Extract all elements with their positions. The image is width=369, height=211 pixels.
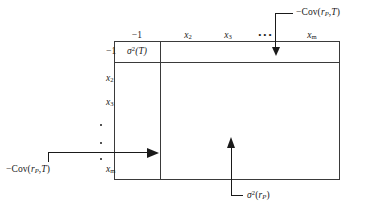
- annotation-bottom-left-label: −Cov(rP,T): [6, 165, 50, 175]
- leader-line-bottom-center-horizontal: [231, 195, 243, 196]
- column-header-m: xm: [307, 31, 317, 41]
- leader-line-bottom-center-vertical: [231, 148, 232, 196]
- annotation-top-right-label: −Cov(rP,T): [296, 8, 340, 18]
- arrow-up-bottom-center: [227, 137, 235, 148]
- cell-variance-of-T: σ2(T): [114, 41, 160, 62]
- annotation-bottom-center-label: σ2(rP): [247, 190, 270, 201]
- row-header-dot-2: [100, 142, 102, 144]
- column-header-ellipsis: • • •: [258, 31, 272, 40]
- leader-line-top-right-vertical: [275, 13, 276, 48]
- matrix-header-column-rule: [160, 41, 161, 180]
- arrow-down-top-right: [272, 47, 280, 56]
- leader-line-top-right-horizontal: [275, 13, 293, 14]
- column-header-1: −1: [132, 31, 142, 41]
- arrow-right-bottom-left: [147, 148, 159, 158]
- figure-covariance-matrix-diagram: −1 x2 x3 • • • xm −1 x2 x3 xm σ2(T) −Cov…: [0, 0, 369, 211]
- leader-line-bottom-left-vertical: [48, 152, 49, 162]
- matrix-header-row-rule: [114, 62, 340, 63]
- column-header-3: x3: [224, 31, 232, 41]
- row-header-dot-3: [100, 158, 102, 160]
- leader-line-bottom-left-horizontal: [48, 152, 148, 153]
- column-header-2: x2: [184, 31, 192, 41]
- row-header-dot-1: [100, 124, 102, 126]
